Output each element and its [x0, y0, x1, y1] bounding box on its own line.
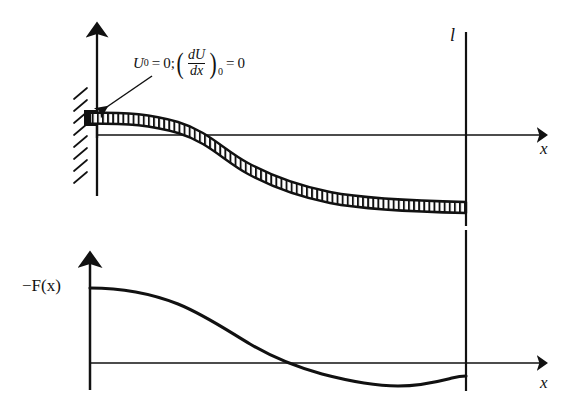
upper-x-axis-label: x — [540, 140, 548, 157]
lower-x-axis-label: x — [540, 374, 548, 391]
lower-y-axis-label: −F(x) — [22, 277, 61, 294]
boundary-condition-annotation: U0 = 0 ; ( dU dx ) 0 = 0 — [133, 48, 245, 78]
bc-derivative-fraction: dU dx — [186, 48, 207, 78]
load-curve — [90, 288, 466, 386]
bc-value-zero-2: 0 — [238, 56, 246, 71]
bc-parenthesized-derivative: ( dU dx ) 0 — [175, 48, 223, 78]
bc-symbol-u: U — [133, 56, 144, 71]
figure-root: l x x −F(x) U0 = 0 ; ( dU dx ) 0 = 0 — [0, 0, 582, 415]
beam-band — [88, 105, 470, 220]
fixed-support-hatching — [74, 88, 87, 183]
right-paren-icon: ) — [210, 48, 217, 78]
bc-derivative-numerator: dU — [186, 48, 207, 62]
bc-value-zero-1: 0 — [163, 56, 171, 71]
bc-derivative-denominator: dx — [188, 63, 205, 78]
bc-leader-arrow — [98, 76, 152, 113]
bc-equals-1: = — [149, 56, 163, 71]
bc-equals-2: = — [223, 56, 237, 71]
diagram-canvas — [0, 0, 582, 415]
left-paren-icon: ( — [176, 48, 183, 78]
length-marker-label: l — [450, 26, 455, 44]
beam-band-outline — [90, 113, 466, 214]
